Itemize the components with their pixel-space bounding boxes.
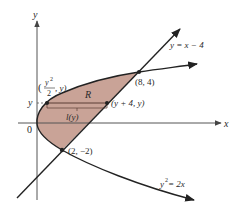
svg-text:y: y: [159, 179, 164, 189]
svg-text:(: (: [38, 81, 42, 94]
point-lower-intersection: [60, 148, 64, 152]
region-diagram: y x 0 y R l(y) ( y 2 2 , y) (y + 4, y) (…: [0, 0, 230, 214]
x-axis-label: x: [223, 118, 229, 129]
svg-text:2: 2: [47, 89, 51, 98]
lower-intersection-label: (2, −2): [68, 146, 93, 156]
upper-intersection-label: (8, 4): [135, 77, 155, 87]
strip-length-label: l(y): [66, 112, 79, 122]
svg-text:2: 2: [50, 76, 53, 82]
region-label: R: [84, 89, 91, 100]
strip-level-label: y: [27, 97, 33, 108]
svg-text:, y): , y): [55, 83, 67, 93]
line-equation-label: y = x − 4: [169, 40, 204, 50]
point-left: [45, 101, 49, 105]
y-axis-label: y: [32, 9, 38, 20]
parabola-equation-label: y 2 = 2x: [159, 177, 185, 189]
origin-label: 0: [27, 124, 32, 135]
point-right: [105, 101, 109, 105]
svg-text:y: y: [44, 78, 49, 87]
right-point-label: (y + 4, y): [111, 98, 145, 108]
point-upper-intersection: [137, 70, 141, 74]
svg-text:= 2x: = 2x: [168, 179, 185, 189]
